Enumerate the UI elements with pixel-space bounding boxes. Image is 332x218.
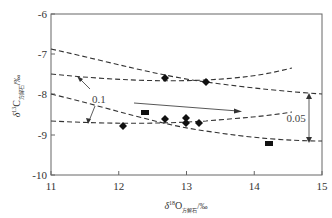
x-tick-label: 12 — [113, 180, 124, 192]
diamond-marker — [195, 119, 203, 127]
annotation-0.1: 0.1 — [77, 76, 106, 124]
square-marker — [265, 141, 273, 146]
x-tick-label: 13 — [181, 180, 193, 192]
diamond-marker — [161, 115, 169, 123]
square-marker — [141, 110, 149, 115]
y-tick-labels: -6 -7 -8 -9 -10 — [32, 8, 47, 181]
y-tick-label: -9 — [38, 129, 48, 141]
scatter-chart: -6 -7 -8 -9 -10 11 12 13 14 15 δ18O方解石/‰… — [0, 0, 332, 218]
y-axis-label: δ13C方解石/‰ — [11, 75, 25, 118]
upper-curve-2 — [51, 68, 292, 81]
square-series — [141, 110, 273, 146]
trend-arrow — [134, 103, 242, 114]
x-tick-label: 15 — [317, 180, 329, 192]
annotation-0.05: 0.05 — [286, 93, 312, 143]
lower-curve-2 — [51, 112, 292, 123]
diamond-marker — [182, 119, 190, 127]
x-axis-label: δ18O方解石/‰ — [164, 200, 207, 214]
y-tick-label: -6 — [38, 8, 48, 20]
y-tick-label: -8 — [38, 88, 48, 100]
x-tick-label: 11 — [46, 180, 57, 192]
x-axis — [51, 171, 322, 175]
annotation-label-0.05: 0.05 — [286, 112, 306, 124]
x-tick-labels: 11 12 13 14 15 — [46, 180, 328, 192]
annotation-label-0.1: 0.1 — [92, 93, 106, 105]
diamond-marker — [202, 78, 210, 86]
y-tick-label: -7 — [38, 48, 48, 60]
x-tick-label: 14 — [249, 180, 261, 192]
upper-curve-1 — [51, 49, 322, 94]
